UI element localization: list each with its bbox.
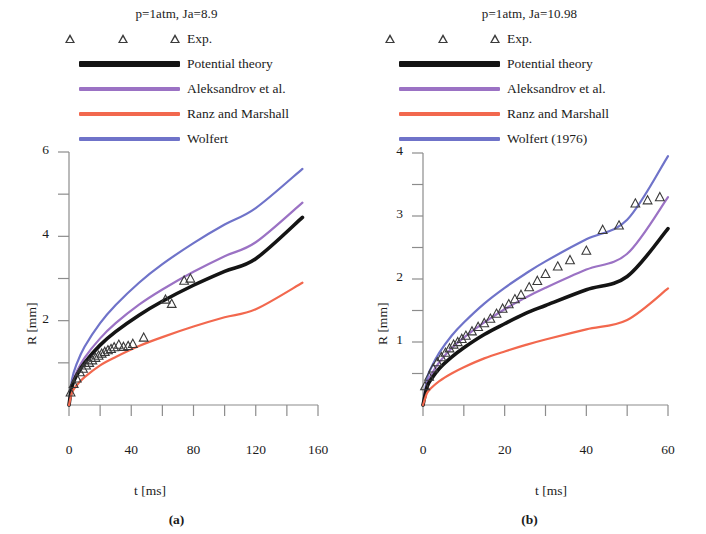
series-line	[69, 169, 302, 405]
series-line	[69, 283, 302, 405]
y-tick-label: 4	[371, 143, 403, 159]
x-tick-label: 160	[298, 442, 338, 458]
x-tick-label: 40	[566, 442, 606, 458]
x-tick-label: 60	[648, 442, 688, 458]
x-tick-label: 0	[403, 442, 443, 458]
data-point-marker	[566, 256, 575, 264]
figure-two-panel-bubble-growth: p=1atm, Ja=8.9 Exp. Potential theory	[0, 0, 706, 534]
x-tick-label: 40	[111, 442, 151, 458]
series-line	[423, 197, 668, 405]
y-tick-label: 1	[371, 332, 403, 348]
panel-a-x-axis-title: t [ms]	[0, 483, 300, 499]
panel-b: p=1atm, Ja=10.98 Exp. Potential theory	[353, 0, 706, 534]
panel-a: p=1atm, Ja=8.9 Exp. Potential theory	[0, 0, 353, 534]
data-point-marker	[517, 290, 526, 298]
y-tick-label: 6	[17, 142, 49, 158]
x-tick-label: 80	[174, 442, 214, 458]
x-tick-label: 120	[236, 442, 276, 458]
panel-b-subcaption: (b)	[353, 512, 706, 528]
data-point-marker	[655, 193, 664, 201]
x-tick-label: 20	[485, 442, 525, 458]
data-point-marker	[533, 276, 542, 284]
y-tick-label: 3	[371, 206, 403, 222]
series-line	[69, 217, 302, 405]
x-tick-label: 0	[49, 442, 89, 458]
series-line	[423, 156, 668, 405]
data-point-marker	[139, 333, 148, 341]
data-point-marker	[582, 246, 591, 254]
panel-a-subcaption: (a)	[0, 512, 353, 528]
y-tick-label: 2	[371, 269, 403, 285]
y-tick-label: 4	[17, 226, 49, 242]
y-tick-label: 2	[17, 311, 49, 327]
panel-b-x-axis-title: t [ms]	[401, 483, 701, 499]
data-point-marker	[541, 269, 550, 277]
data-point-marker	[553, 262, 562, 270]
data-point-marker	[525, 283, 534, 291]
